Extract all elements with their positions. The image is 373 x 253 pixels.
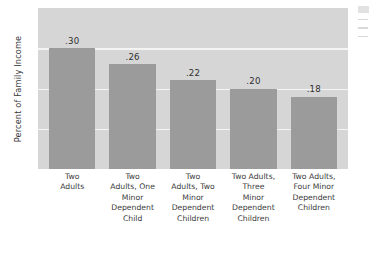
bar-value-label: .26: [109, 52, 156, 62]
x-axis-label-group: TwoAdultsTwoAdults, OneMinorDependentChi…: [38, 172, 348, 250]
bar-slot: .20: [223, 8, 283, 169]
x-axis-category-label: Two Adults,Four MinorDependentChildren: [284, 172, 344, 250]
bar-chart-figure: Percent of Family Income .30.26.22.20.18…: [0, 0, 373, 253]
caption-heading-block: [358, 6, 369, 13]
bar-slot: .30: [42, 8, 102, 169]
x-axis-category-label: TwoAdults, TwoMinorDependentChildren: [163, 172, 223, 250]
bar-value-label: .22: [170, 68, 217, 78]
caption-text-line: [358, 27, 368, 28]
bar[interactable]: .20: [230, 89, 277, 170]
y-axis-label: Percent of Family Income: [13, 35, 23, 142]
x-axis-category-label: TwoAdults: [42, 172, 102, 250]
bar-value-label: .18: [291, 84, 338, 94]
bar-slot: .22: [163, 8, 223, 169]
bar-slot: .26: [102, 8, 162, 169]
bar-slot: .18: [284, 8, 344, 169]
bar-value-label: .30: [49, 36, 96, 46]
y-axis-label-container: Percent of Family Income: [0, 8, 36, 169]
bar[interactable]: .26: [109, 64, 156, 169]
caption-text-line: [358, 19, 368, 20]
plot-area: .30.26.22.20.18: [38, 8, 348, 169]
caption-text-line: [358, 36, 368, 37]
cropped-side-caption: [358, 6, 373, 72]
bar-group: .30.26.22.20.18: [38, 8, 348, 169]
bar-value-label: .20: [230, 76, 277, 86]
x-axis-category-label: Two Adults,ThreeMinorDependentChildren: [223, 172, 283, 250]
bar[interactable]: .30: [49, 48, 96, 169]
x-axis-category-label: TwoAdults, OneMinorDependentChild: [102, 172, 162, 250]
bar[interactable]: .18: [291, 97, 338, 169]
bar[interactable]: .22: [170, 80, 217, 169]
